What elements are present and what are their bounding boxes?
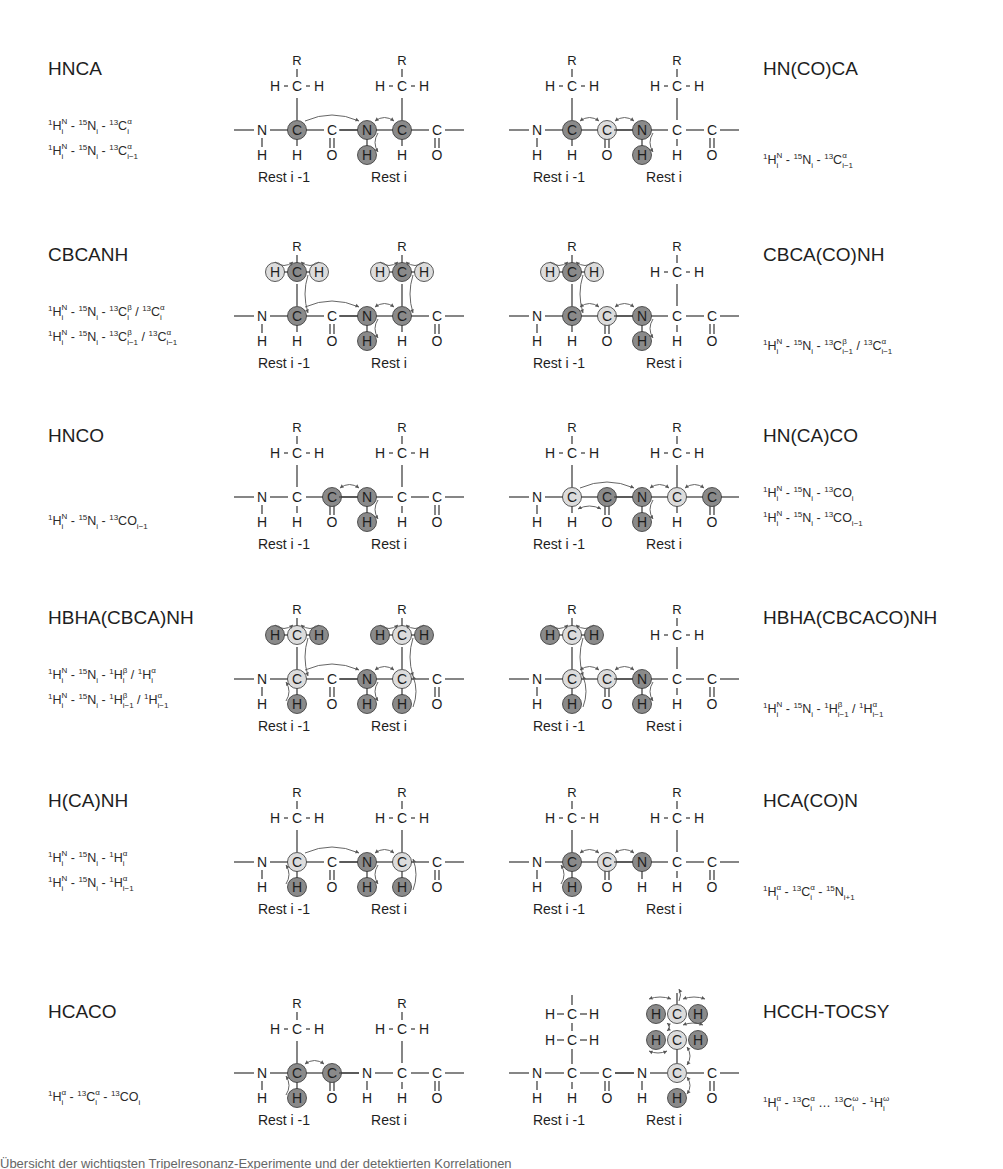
svg-text:H: H <box>589 1006 599 1022</box>
svg-text:N: N <box>637 122 647 138</box>
residue-label-curr: Rest i <box>646 536 682 552</box>
residue-label-prev: Rest i -1 <box>533 355 585 371</box>
svg-text:N: N <box>257 122 267 138</box>
svg-text:R: R <box>567 239 576 254</box>
structure-hca-co-n: RNHCHCOCHHRNHCHCOCHHRest i -1Rest i <box>509 785 739 917</box>
svg-text:H: H <box>419 810 429 826</box>
svg-text:C: C <box>672 854 682 870</box>
svg-text:H: H <box>672 333 682 349</box>
svg-text:C: C <box>672 489 682 505</box>
svg-text:C: C <box>292 445 302 461</box>
svg-text:H: H <box>292 147 302 163</box>
figure-caption-partial: Übersicht der wichtigsten Tripelresonanz… <box>0 1156 1003 1169</box>
svg-text:H: H <box>419 78 429 94</box>
svg-text:C: C <box>567 854 577 870</box>
svg-text:C: C <box>567 1032 577 1048</box>
svg-text:C: C <box>707 671 717 687</box>
svg-text:H: H <box>375 810 385 826</box>
svg-text:C: C <box>432 671 442 687</box>
svg-text:H: H <box>362 1090 372 1106</box>
residue-label-prev: Rest i -1 <box>258 536 310 552</box>
svg-text:C: C <box>707 854 717 870</box>
svg-text:R: R <box>397 996 406 1011</box>
svg-text:H: H <box>419 445 429 461</box>
svg-text:C: C <box>672 122 682 138</box>
svg-text:C: C <box>567 627 577 643</box>
svg-text:O: O <box>602 333 613 349</box>
svg-text:N: N <box>532 308 542 324</box>
svg-text:H: H <box>589 1032 599 1048</box>
svg-text:H: H <box>532 696 542 712</box>
svg-text:C: C <box>567 1006 577 1022</box>
svg-text:C: C <box>397 627 407 643</box>
svg-text:R: R <box>567 602 576 617</box>
residue-label-curr: Rest i <box>371 1112 407 1128</box>
svg-text:C: C <box>672 1032 682 1048</box>
svg-text:C: C <box>567 264 577 280</box>
svg-text:O: O <box>327 333 338 349</box>
svg-text:H: H <box>397 1090 407 1106</box>
svg-text:H: H <box>637 1090 647 1106</box>
svg-text:H: H <box>567 696 577 712</box>
residue-label-prev: Rest i -1 <box>533 536 585 552</box>
svg-text:C: C <box>432 854 442 870</box>
svg-text:H: H <box>292 696 302 712</box>
svg-text:H: H <box>567 1090 577 1106</box>
svg-text:C: C <box>602 122 612 138</box>
svg-text:H: H <box>637 514 647 530</box>
svg-text:C: C <box>292 810 302 826</box>
svg-text:H: H <box>637 879 647 895</box>
svg-text:C: C <box>327 489 337 505</box>
svg-text:O: O <box>602 514 613 530</box>
svg-text:H: H <box>270 810 280 826</box>
svg-text:O: O <box>432 147 443 163</box>
residue-label-prev: Rest i -1 <box>533 718 585 734</box>
svg-text:H: H <box>545 1006 555 1022</box>
svg-text:R: R <box>672 602 681 617</box>
structure-hn-ca-co: RNHCHCOCHHRNHCHCOCHHRest i -1Rest i <box>509 420 739 552</box>
svg-text:C: C <box>397 122 407 138</box>
svg-text:N: N <box>362 671 372 687</box>
svg-text:C: C <box>602 671 612 687</box>
svg-text:H: H <box>270 264 280 280</box>
svg-text:C: C <box>327 854 337 870</box>
svg-text:C: C <box>567 671 577 687</box>
svg-text:R: R <box>397 53 406 68</box>
svg-text:C: C <box>602 308 612 324</box>
svg-text:C: C <box>327 1065 337 1081</box>
residue-label-prev: Rest i -1 <box>533 901 585 917</box>
svg-text:O: O <box>602 879 613 895</box>
svg-text:H: H <box>694 264 704 280</box>
svg-text:H: H <box>362 147 372 163</box>
svg-text:H: H <box>637 147 647 163</box>
svg-text:H: H <box>672 514 682 530</box>
svg-text:H: H <box>545 445 555 461</box>
svg-text:R: R <box>567 420 576 435</box>
svg-text:H: H <box>257 696 267 712</box>
svg-text:H: H <box>314 78 324 94</box>
svg-text:O: O <box>707 333 718 349</box>
svg-text:C: C <box>292 78 302 94</box>
svg-text:R: R <box>292 53 301 68</box>
svg-text:H: H <box>545 264 555 280</box>
svg-text:N: N <box>532 671 542 687</box>
svg-text:H: H <box>589 445 599 461</box>
svg-text:C: C <box>672 1065 682 1081</box>
svg-text:C: C <box>432 122 442 138</box>
svg-text:C: C <box>292 489 302 505</box>
svg-text:R: R <box>397 239 406 254</box>
residue-label-curr: Rest i <box>646 901 682 917</box>
svg-text:H: H <box>532 147 542 163</box>
svg-text:H: H <box>257 514 267 530</box>
svg-text:C: C <box>707 308 717 324</box>
svg-text:H: H <box>650 810 660 826</box>
svg-text:H: H <box>292 333 302 349</box>
svg-text:N: N <box>362 854 372 870</box>
svg-text:N: N <box>362 1065 372 1081</box>
svg-text:H: H <box>375 627 385 643</box>
svg-text:C: C <box>672 810 682 826</box>
svg-text:O: O <box>327 696 338 712</box>
svg-text:C: C <box>672 671 682 687</box>
svg-text:R: R <box>672 239 681 254</box>
svg-text:H: H <box>257 1090 267 1106</box>
